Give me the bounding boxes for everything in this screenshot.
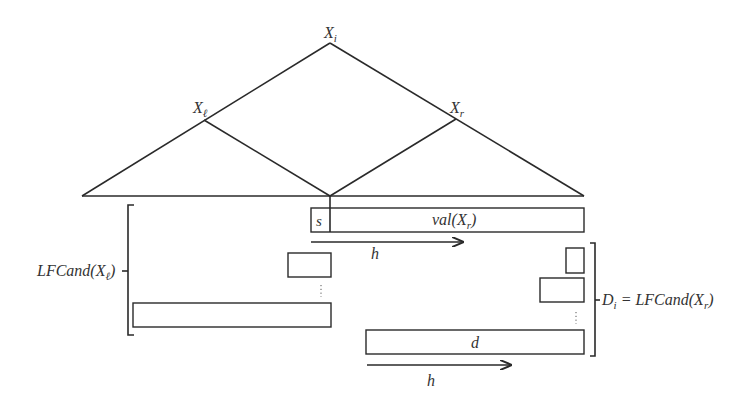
right-candidate-small-box xyxy=(540,278,584,302)
right-group-label: Di = LFCand(Xr) xyxy=(601,291,713,311)
right-bracket xyxy=(590,243,595,356)
diagram-canvas: Xi Xℓ Xr s val(Xr) h LFCand(Xℓ) d Di = L… xyxy=(0,0,755,405)
left-candidate-long-box xyxy=(133,303,331,327)
right-candidate-group: d Di = LFCand(Xr) xyxy=(366,243,713,356)
left-subtree-edge xyxy=(204,120,330,196)
left-group-label: LFCand(Xℓ) xyxy=(36,262,115,282)
right-candidate-tiny-box xyxy=(566,248,584,273)
root-node-label: Xi xyxy=(323,24,337,44)
top-bar: s val(Xr) xyxy=(311,208,584,232)
tree-triangle xyxy=(82,43,584,232)
h-label-bottom: h xyxy=(427,372,435,389)
h-label-top: h xyxy=(371,245,379,262)
left-candidate-small-box xyxy=(288,253,331,277)
d-label: d xyxy=(471,334,480,351)
left-node-label: Xℓ xyxy=(192,99,208,119)
right-subtree-edge xyxy=(330,119,456,196)
left-candidate-group: LFCand(Xℓ) xyxy=(36,205,331,335)
s-label: s xyxy=(316,213,322,229)
